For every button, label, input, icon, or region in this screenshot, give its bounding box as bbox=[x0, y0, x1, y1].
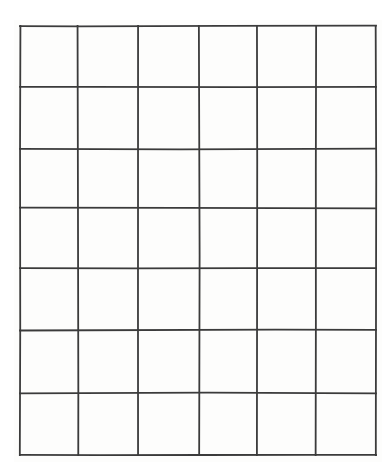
grid-cell[interactable] bbox=[20, 149, 78, 208]
grid-line-horizontal bbox=[20, 149, 376, 150]
grid-cell[interactable] bbox=[199, 268, 257, 330]
grid-cell[interactable] bbox=[316, 330, 376, 393]
grid-cell[interactable] bbox=[138, 149, 199, 208]
grid-cell-layer bbox=[20, 26, 376, 455]
grid-line-horizontal bbox=[20, 208, 376, 209]
grid-cell[interactable] bbox=[138, 208, 199, 268]
grid-cell[interactable] bbox=[199, 393, 257, 455]
grid-cell[interactable] bbox=[316, 268, 376, 330]
grid-cell[interactable] bbox=[316, 26, 376, 87]
grid-line-horizontal bbox=[20, 393, 376, 394]
grid-cell[interactable] bbox=[78, 330, 138, 393]
grid-cell[interactable] bbox=[199, 149, 257, 208]
grid-cell[interactable] bbox=[20, 330, 78, 393]
grid-line-vertical bbox=[199, 26, 200, 455]
grid-cell[interactable] bbox=[199, 208, 257, 268]
grid-line-vertical bbox=[376, 26, 377, 455]
grid-cell[interactable] bbox=[257, 393, 316, 455]
grid-line-horizontal bbox=[20, 26, 376, 27]
grid-canvas bbox=[0, 0, 391, 472]
grid-cell[interactable] bbox=[138, 87, 199, 149]
grid-line-horizontal bbox=[20, 330, 376, 331]
grid-cell[interactable] bbox=[316, 149, 376, 208]
grid-cell[interactable] bbox=[138, 330, 199, 393]
grid-cell[interactable] bbox=[316, 393, 376, 455]
grid-cell[interactable] bbox=[257, 26, 316, 87]
grid-cell[interactable] bbox=[316, 87, 376, 149]
grid-cell[interactable] bbox=[78, 208, 138, 268]
grid-cell[interactable] bbox=[78, 87, 138, 149]
grid-cell[interactable] bbox=[138, 268, 199, 330]
grid-cell[interactable] bbox=[316, 208, 376, 268]
grid-cell[interactable] bbox=[138, 393, 199, 455]
grid-cell[interactable] bbox=[20, 87, 78, 149]
grid-cell[interactable] bbox=[78, 26, 138, 87]
grid-cell[interactable] bbox=[78, 393, 138, 455]
grid-cell[interactable] bbox=[20, 26, 78, 87]
grid-cell[interactable] bbox=[257, 330, 316, 393]
grid-cell[interactable] bbox=[199, 26, 257, 87]
grid-cell[interactable] bbox=[199, 87, 257, 149]
grid-line-vertical bbox=[78, 26, 79, 455]
grid-cell[interactable] bbox=[138, 26, 199, 87]
grid-cell[interactable] bbox=[257, 149, 316, 208]
grid-cell[interactable] bbox=[257, 268, 316, 330]
grid-svg bbox=[0, 0, 391, 472]
grid-cell[interactable] bbox=[199, 330, 257, 393]
grid-cell[interactable] bbox=[257, 87, 316, 149]
grid-cell[interactable] bbox=[20, 268, 78, 330]
grid-cell[interactable] bbox=[20, 208, 78, 268]
grid-sheet bbox=[0, 0, 391, 472]
grid-cell[interactable] bbox=[20, 393, 78, 455]
grid-cell[interactable] bbox=[257, 208, 316, 268]
grid-line-vertical bbox=[20, 26, 21, 455]
grid-cell[interactable] bbox=[78, 149, 138, 208]
grid-cell[interactable] bbox=[78, 268, 138, 330]
